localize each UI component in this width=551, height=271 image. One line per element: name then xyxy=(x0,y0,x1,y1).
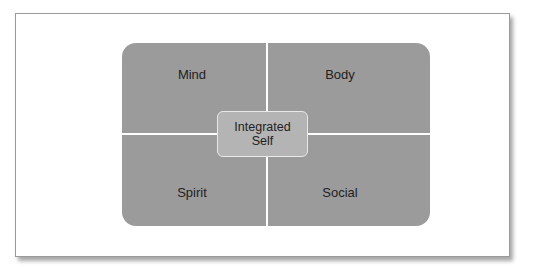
integrated-self-box: Integrated Self xyxy=(217,111,308,157)
center-label-line1: Integrated xyxy=(234,120,290,134)
quadrant-label: Social xyxy=(322,185,357,200)
quadrant-label: Body xyxy=(325,67,355,82)
quadrant-label: Spirit xyxy=(177,185,207,200)
center-label-line2: Self xyxy=(252,134,274,148)
quadrant-label: Mind xyxy=(178,67,206,82)
